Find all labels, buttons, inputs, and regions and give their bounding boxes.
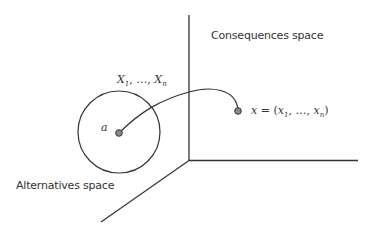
attributes-label: X1, …, Xn: [117, 73, 167, 88]
alternative-point-label: a: [101, 121, 108, 134]
alternative-point-dot: [116, 130, 123, 137]
consequence-point-dot: [235, 108, 242, 115]
alternatives-space-label: Alternatives space: [16, 179, 114, 192]
consequences-space-label: Consequences space: [211, 29, 323, 42]
consequence-point-label: x = (x1, …, xn): [251, 104, 328, 119]
